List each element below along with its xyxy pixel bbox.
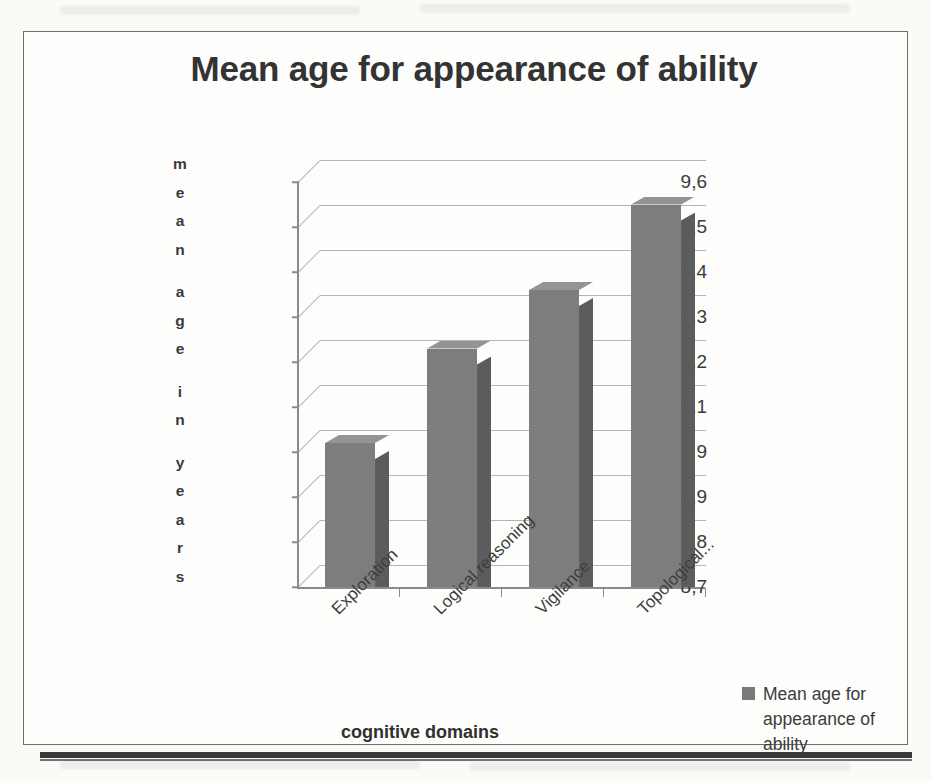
gridline-depth-riser — [298, 520, 321, 543]
y-axis-tick-mark — [292, 181, 299, 183]
y-axis-title-letter: s — [159, 563, 201, 592]
y-axis-title-letter: e — [159, 179, 201, 208]
gridline — [320, 160, 706, 161]
ghost-text-line — [420, 4, 850, 13]
y-axis-title-letter: i — [159, 378, 201, 407]
x-axis-tick-mark — [501, 588, 502, 597]
y-axis-tick-mark — [292, 451, 299, 453]
y-axis-tick-mark — [292, 586, 299, 588]
bar-front-face — [631, 205, 681, 588]
bar-column[interactable] — [631, 205, 681, 588]
y-axis-title-letter: n — [159, 236, 201, 265]
bar-side-face — [579, 298, 593, 587]
y-axis-tick-mark — [292, 496, 299, 498]
legend-square-icon — [742, 687, 755, 700]
y-axis-title-letter: e — [159, 335, 201, 364]
y-axis-title-letter — [159, 364, 201, 378]
y-axis-title-letter: g — [159, 307, 201, 336]
ghost-text-line — [60, 6, 360, 15]
legend: Mean age for appearance of ability — [742, 682, 917, 757]
y-axis-tick-mark — [292, 541, 299, 543]
x-axis-title: cognitive domains — [260, 722, 580, 743]
y-axis-title-letter: n — [159, 406, 201, 435]
gridline-depth-riser — [298, 295, 321, 318]
gridline-depth-riser — [298, 160, 321, 183]
y-axis-title-letter: a — [159, 278, 201, 307]
gridline-depth-riser — [298, 205, 321, 228]
bar-front-face — [427, 349, 477, 588]
gridline-depth-riser — [298, 340, 321, 363]
y-axis-title-letter: e — [159, 477, 201, 506]
bar-side-face — [681, 213, 695, 588]
plot-area: 9,69,59,49,39,29,198,98,88,7 — [237, 157, 707, 607]
legend-item-label: Mean age for appearance of ability — [763, 682, 917, 757]
y-axis-tick-mark — [292, 226, 299, 228]
y-axis-title-letter — [159, 435, 201, 449]
y-axis-title-letter: y — [159, 449, 201, 478]
chart-frame: Mean age for appearance of ability mean … — [23, 31, 908, 745]
y-axis-tick-mark — [292, 406, 299, 408]
y-axis-title-letter — [159, 264, 201, 278]
y-axis-title-letter: r — [159, 534, 201, 563]
y-axis-tick-mark — [292, 316, 299, 318]
y-axis-title-letter: a — [159, 506, 201, 535]
gridline-depth-riser — [298, 475, 321, 498]
chart-title: Mean age for appearance of ability — [174, 48, 774, 89]
bar-column[interactable] — [529, 290, 579, 587]
y-axis-title-letter: m — [159, 150, 201, 179]
y-axis-title-letter: a — [159, 207, 201, 236]
gridline-depth-riser — [298, 565, 321, 588]
ghost-text-line — [60, 760, 420, 769]
y-axis-title: mean age in years — [159, 150, 201, 591]
x-axis-tick-mark — [399, 588, 400, 597]
x-axis-tick-mark — [705, 588, 706, 597]
gridline-depth-riser — [298, 430, 321, 453]
x-axis-tick-mark — [603, 588, 604, 597]
page-bottom-rule — [40, 752, 912, 758]
y-axis-tick-label: 9,6 — [655, 171, 707, 193]
bar-front-face — [529, 290, 579, 587]
y-axis-tick-mark — [292, 271, 299, 273]
ghost-text-line — [470, 762, 850, 771]
y-axis-line — [297, 182, 299, 587]
gridline-depth-riser — [298, 385, 321, 408]
bar-column[interactable] — [427, 349, 477, 588]
gridline-depth-riser — [298, 250, 321, 273]
y-axis-tick-mark — [292, 361, 299, 363]
